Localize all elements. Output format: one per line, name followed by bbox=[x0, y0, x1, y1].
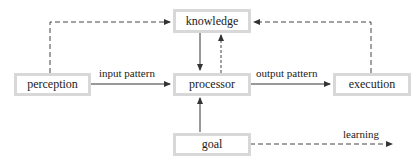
node-execution-label: execution bbox=[349, 77, 396, 92]
node-processor: processor bbox=[173, 73, 251, 96]
node-processor-label: processor bbox=[189, 77, 235, 92]
node-goal-label: goal bbox=[202, 137, 223, 152]
node-perception-label: perception bbox=[27, 77, 78, 92]
node-perception: perception bbox=[14, 73, 91, 96]
edge-label-input-pattern: input pattern bbox=[99, 67, 155, 79]
edge-label-learning: learning bbox=[343, 128, 379, 140]
node-knowledge: knowledge bbox=[173, 9, 251, 33]
edge-label-output-pattern: output pattern bbox=[256, 67, 317, 79]
node-knowledge-label: knowledge bbox=[186, 14, 239, 29]
edge-perception-knowledge bbox=[50, 22, 170, 73]
edge-execution-knowledge bbox=[254, 22, 371, 73]
node-goal: goal bbox=[173, 133, 251, 156]
node-execution: execution bbox=[333, 73, 411, 96]
